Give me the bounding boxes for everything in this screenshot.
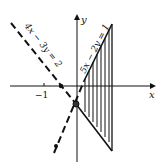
x-axis-label: x xyxy=(149,89,155,100)
y-axis-label: y xyxy=(80,14,87,25)
point-x-intercept xyxy=(59,84,63,88)
point-intersection xyxy=(73,101,79,107)
point-bottom xyxy=(54,144,58,148)
graph: y x −1 4x − 3y = 2 5x − 2y = 1 xyxy=(0,0,165,162)
line-5x-2y-1-dashed xyxy=(54,81,84,153)
line-4x-3y-2-solid xyxy=(76,104,112,151)
tick-label-minus-1: −1 xyxy=(35,90,48,100)
equation-label-5x-2y: 5x − 2y = 1 xyxy=(78,22,111,75)
